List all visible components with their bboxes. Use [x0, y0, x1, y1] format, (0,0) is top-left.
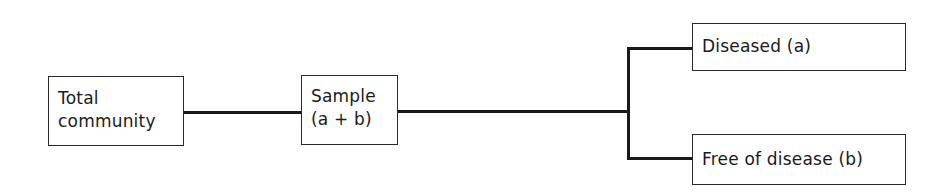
node-free-of-disease-label: Free of disease (b): [702, 149, 863, 170]
node-diseased: Diseased (a): [692, 23, 906, 71]
node-sample-line2: (a + b): [311, 109, 372, 130]
node-sample-line1: Sample: [311, 86, 376, 107]
node-sample: Sample (a + b): [301, 75, 398, 145]
node-diseased-label: Diseased (a): [702, 36, 811, 57]
connector-sample-to-branch: [398, 110, 630, 113]
node-total-community-line1: Total: [58, 88, 99, 109]
connector-branch-to-free: [627, 157, 693, 160]
node-total-community: Total community: [48, 76, 184, 146]
connector-branch-vertical: [627, 47, 630, 160]
connector-total-to-sample: [184, 111, 302, 114]
connector-branch-to-diseased: [627, 47, 693, 50]
node-total-community-line2: community: [58, 111, 156, 132]
node-free-of-disease: Free of disease (b): [692, 134, 906, 185]
sampling-flow-diagram: Total community Sample (a + b) Diseased …: [0, 0, 950, 195]
